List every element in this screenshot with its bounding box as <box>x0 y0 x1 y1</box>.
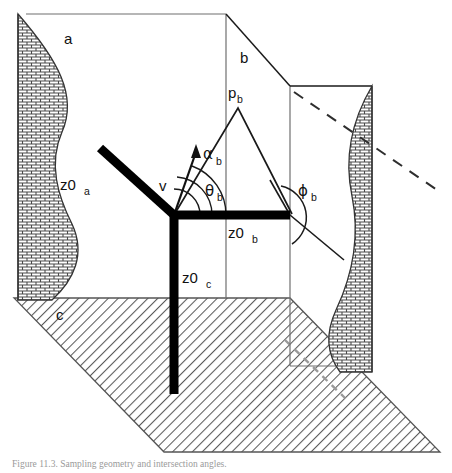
label-angle-phi-b-sub: b <box>311 191 317 203</box>
label-plane-a: a <box>64 30 73 47</box>
label-axis-z0a: z0 a <box>60 176 90 197</box>
label-angle-theta-b: θ b <box>205 182 223 203</box>
label-axis-z0b-base: z0 <box>228 224 244 241</box>
label-angle-alpha-b-sub: b <box>216 155 222 167</box>
figure-container: a b c p b z0 a z0 b z0 c v α b <box>0 0 452 473</box>
label-axis-z0b-sub: b <box>252 233 258 245</box>
label-plane-c: c <box>56 306 64 323</box>
ground-plane-c <box>14 298 440 452</box>
label-axis-z0a-sub: a <box>84 185 90 197</box>
label-axis-z0c-sub: c <box>206 278 211 290</box>
label-angle-theta-b-sub: b <box>217 191 223 203</box>
label-angle-phi-b: ϕ b <box>298 182 317 203</box>
label-vector-v: v <box>159 177 167 194</box>
figure-caption: Figure 11.3. Sampling geometry and inter… <box>12 458 442 472</box>
label-angle-alpha-b-base: α <box>203 145 213 163</box>
left-brick-wall <box>18 14 78 300</box>
geometry-diagram: a b c p b z0 a z0 b z0 c v α b <box>0 0 452 473</box>
label-angle-theta-b-base: θ <box>205 182 214 200</box>
label-plane-b: b <box>240 49 248 66</box>
label-angle-alpha-b: α b <box>203 145 222 167</box>
vector-v-arrow <box>174 144 201 215</box>
label-angle-phi-b-base: ϕ <box>298 182 308 200</box>
label-point-pb-sub: b <box>237 93 243 105</box>
label-axis-z0a-base: z0 <box>60 176 76 193</box>
label-point-pb-base: p <box>228 84 236 101</box>
label-axis-z0c-base: z0 <box>182 269 198 286</box>
right-brick-wall <box>329 86 372 372</box>
label-axis-z0c: z0 c <box>182 269 211 290</box>
